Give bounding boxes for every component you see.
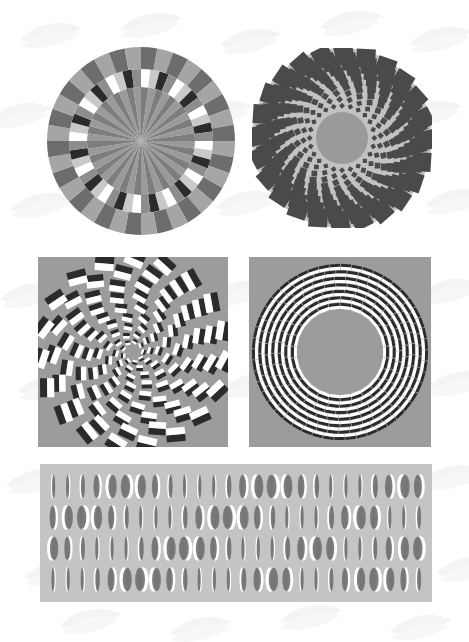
figure-spiral-square-disc: [252, 48, 432, 228]
ellipse-shadow: [213, 506, 218, 529]
ring-dash-dark: [336, 411, 346, 414]
ellipse-shadow: [330, 475, 332, 498]
ellipse-shadow: [301, 568, 303, 591]
spiral-square: [367, 100, 373, 106]
ellipse-shadow: [196, 506, 200, 529]
ellipse-shadow: [155, 568, 160, 591]
ellipse-shadow: [272, 506, 275, 529]
ellipse-shadow: [68, 568, 70, 591]
dash-dark: [76, 367, 81, 381]
ellipse-shadow: [386, 475, 390, 498]
ellipse-shadow: [271, 537, 273, 560]
spiral-square: [365, 107, 370, 112]
ellipse-shadow: [111, 537, 113, 560]
ellipse-shadow: [155, 506, 157, 529]
ellipse-shadow: [96, 537, 98, 560]
ellipse-shadow: [299, 475, 303, 498]
ellipse-shadow: [153, 537, 157, 560]
ellipse-shadow: [258, 537, 260, 560]
ellipse-shadow: [271, 568, 276, 591]
ellipse-shadow: [287, 537, 290, 560]
ellipse-shadow: [67, 506, 72, 529]
ring-dash-light: [389, 347, 392, 357]
ellipse-shadow: [96, 506, 101, 529]
spiral-square: [309, 177, 316, 184]
dash-light: [94, 263, 113, 271]
ellipse-shadow: [315, 506, 317, 529]
ring-dash-light: [268, 344, 271, 355]
ring-dash-dark: [386, 347, 389, 358]
ellipse-shadow: [403, 537, 408, 560]
dash-dark: [142, 384, 152, 388]
ellipse-shadow: [403, 506, 405, 529]
ellipse-shadow: [184, 568, 187, 591]
ellipse-shadow: [268, 475, 273, 498]
ellipse-shadow: [53, 475, 55, 498]
ellipse-shadow: [82, 537, 84, 560]
ring-dash-dark: [412, 344, 415, 355]
ellipse-shadow: [387, 537, 390, 560]
dash-light: [123, 353, 125, 358]
ellipse-shadow: [330, 506, 333, 529]
ellipse-shadow: [345, 537, 347, 560]
spiral-square: [311, 171, 317, 177]
ring-dash-light: [334, 293, 344, 296]
ellipse-shadow: [140, 475, 145, 498]
figure-concentric-ring-dash-panel: [249, 257, 431, 447]
ring-dash-dark: [284, 346, 287, 356]
ellipse-shadow: [228, 475, 231, 498]
dash-light: [142, 380, 152, 384]
ellipse-shadow: [371, 506, 375, 529]
ring-dash-dark: [330, 264, 341, 268]
ellipse-shadow: [199, 475, 201, 498]
ring-dash-dark: [335, 277, 345, 280]
dash-dark: [141, 375, 150, 379]
dash-light: [59, 375, 66, 392]
spiral-square: [363, 159, 367, 163]
ellipse-shadow: [401, 568, 404, 591]
ellipse-shadow: [359, 506, 364, 529]
ellipse-shadow: [389, 568, 394, 591]
ellipse-shadow: [78, 506, 83, 529]
spiral-square: [381, 163, 388, 170]
figure-ellipse-grid-panel: [40, 464, 432, 602]
ellipse-shadow: [140, 506, 142, 529]
ring-dash-light: [409, 344, 412, 355]
ellipse-shadow: [137, 568, 142, 591]
ellipse-shadow: [389, 506, 391, 529]
ellipse-shadow: [198, 568, 200, 591]
ellipse-shadow: [255, 506, 259, 529]
ring-dash-light: [255, 349, 258, 359]
ellipse-shadow: [126, 506, 128, 529]
ellipse-shadow: [51, 506, 54, 529]
ring-dash-light: [383, 347, 386, 358]
spiral-square: [317, 159, 321, 163]
ellipse-shadow: [169, 537, 174, 560]
ellipse-shadow: [343, 568, 346, 591]
ellipse-shadow: [214, 568, 216, 591]
ring-dash-light: [334, 434, 344, 437]
spiral-square: [356, 48, 376, 68]
ellipse-shadow: [52, 568, 54, 591]
spiral-square: [317, 113, 321, 117]
ring-dash-dark: [405, 345, 408, 356]
ellipse-shadow: [298, 537, 302, 560]
ring-dash-dark: [265, 344, 268, 355]
ellipse-shadow: [342, 506, 346, 529]
ellipse-shadow: [125, 568, 130, 591]
figure-spiral-dash-panel: [38, 257, 228, 447]
figure-plate: [0, 0, 469, 642]
ring-dash-dark: [252, 349, 255, 359]
ellipse-shadow: [94, 475, 97, 498]
ellipse-shadow: [224, 506, 229, 529]
ellipse-shadow: [81, 568, 83, 591]
ring-dash-light: [336, 273, 346, 276]
spiral-square: [296, 105, 303, 112]
ellipse-shadow: [109, 568, 113, 591]
dash-light: [136, 365, 143, 368]
dash-dark: [148, 428, 166, 436]
ring-dash-dark: [258, 342, 262, 353]
ellipse-shadow: [82, 475, 84, 498]
dash-dark: [40, 378, 47, 397]
ring-dash-dark: [418, 345, 421, 355]
